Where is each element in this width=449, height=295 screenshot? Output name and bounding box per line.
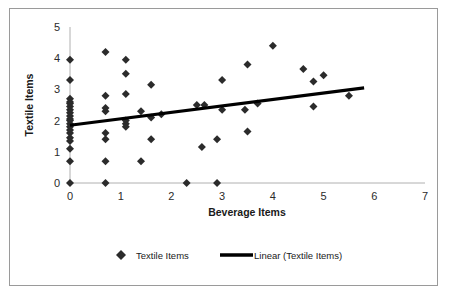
y-tick-label: 2 [54, 115, 60, 127]
data-point-marker [299, 65, 307, 73]
data-point-marker [66, 56, 74, 64]
data-point-marker [102, 92, 110, 100]
data-point-marker [137, 157, 145, 165]
data-point-marker [102, 48, 110, 56]
x-tick-label: 7 [422, 190, 428, 202]
data-point-marker [269, 42, 277, 50]
data-point-marker [213, 179, 221, 187]
x-tick-label: 5 [321, 190, 327, 202]
x-tick-label: 4 [270, 190, 276, 202]
data-point-marker [66, 157, 74, 165]
x-tick-label: 2 [168, 190, 174, 202]
data-point-marker [244, 60, 252, 68]
data-point-marker [122, 90, 130, 98]
y-axis-title: Textile Items [23, 73, 35, 136]
y-tick-label: 0 [54, 177, 60, 189]
data-point-marker [122, 70, 130, 78]
data-point-marker [147, 135, 155, 143]
data-point-marker [102, 157, 110, 165]
linear-trendline [70, 88, 364, 125]
data-point-marker [345, 92, 353, 100]
data-point-marker [102, 129, 110, 137]
x-tick-label: 0 [67, 190, 73, 202]
data-point-marker [213, 135, 221, 143]
y-tick-label: 4 [54, 52, 60, 64]
data-point-group [66, 42, 353, 187]
data-point-marker [218, 76, 226, 84]
y-tick-labels: 012345 [54, 21, 60, 189]
legend-label-linear-trend: Linear (Textile Items) [254, 250, 342, 261]
x-tick-label: 6 [371, 190, 377, 202]
data-point-marker [122, 56, 130, 64]
x-tick-label: 3 [219, 190, 225, 202]
data-point-marker [241, 106, 249, 114]
chart-figure: 012345 01234567 Beverage Items Textile I… [0, 0, 449, 295]
data-point-marker [66, 145, 74, 153]
y-tick-label: 5 [54, 21, 60, 33]
data-point-marker [309, 78, 317, 86]
data-point-marker [147, 81, 155, 89]
y-tick-label: 1 [54, 146, 60, 158]
data-point-marker [244, 128, 252, 136]
y-tick-label: 3 [54, 83, 60, 95]
data-point-marker [198, 143, 206, 151]
data-point-marker [309, 103, 317, 111]
chart-legend: Textile Items Linear (Textile Items) [116, 250, 342, 261]
legend-label-textile-items: Textile Items [136, 250, 189, 261]
data-point-marker [183, 179, 191, 187]
x-axis-title: Beverage Items [208, 206, 286, 218]
data-point-marker [66, 76, 74, 84]
scatter-plot: 012345 01234567 Beverage Items Textile I… [0, 0, 449, 295]
data-point-marker [320, 71, 328, 79]
data-point-marker [102, 179, 110, 187]
data-point-marker [66, 179, 74, 187]
x-tick-labels: 01234567 [67, 190, 428, 202]
data-point-marker [137, 107, 145, 115]
legend-diamond-marker-icon [116, 250, 126, 260]
x-tick-label: 1 [118, 190, 124, 202]
